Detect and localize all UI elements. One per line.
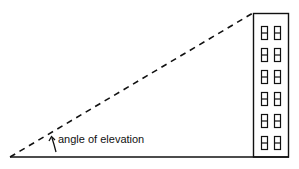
angle-of-elevation-label: angle of elevation <box>58 133 144 145</box>
angle-arc-arrow-icon <box>49 137 56 153</box>
building-windows <box>262 27 281 150</box>
elevation-diagram <box>0 0 299 169</box>
building <box>254 14 289 158</box>
